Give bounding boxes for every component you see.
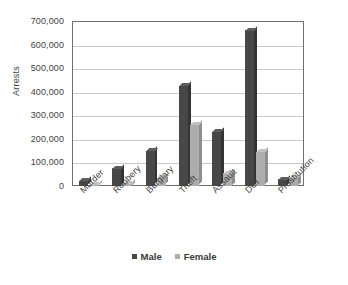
bar-group (179, 21, 212, 186)
bar-group (112, 21, 145, 186)
legend-label: Male (141, 251, 162, 262)
bar-dui-male (245, 30, 254, 186)
y-axis-tick-label: 600,000 (31, 40, 64, 50)
legend-item-female[interactable]: Female (175, 251, 217, 262)
y-axis-tick-label: 200,000 (31, 134, 64, 144)
legend-label: Female (184, 251, 217, 262)
bar-side (199, 121, 202, 185)
y-axis-tick-label: 300,000 (31, 110, 64, 120)
legend-item-male[interactable]: Male (132, 251, 162, 262)
x-axis-category-labels: MurderRobberyBurglaryTheftAssaultDUIPros… (72, 188, 304, 236)
bar-side (265, 148, 268, 185)
y-axis-tick-label: 700,000 (31, 16, 64, 26)
chart-legend: MaleFemale (0, 251, 348, 262)
bar-group (146, 21, 179, 186)
bar-theft-male (179, 86, 188, 186)
y-axis-tick-label: 100,000 (31, 157, 64, 167)
bar-face (245, 30, 254, 186)
bar-group (212, 21, 245, 186)
male-legend-swatch (132, 254, 137, 259)
y-axis-tick-label: 500,000 (31, 63, 64, 73)
bar-group (245, 21, 278, 186)
bar-group (79, 21, 112, 186)
bars-layer (72, 21, 304, 186)
y-axis-tick-label: 0 (59, 181, 64, 191)
bar-face (179, 86, 188, 186)
y-axis-tick-label: 400,000 (31, 87, 64, 97)
y-axis-tick-labels: 0100,000200,000300,000400,000500,000600,… (0, 21, 68, 186)
bar-chart: Arrests 0100,000200,000300,000400,000500… (0, 0, 348, 285)
female-legend-swatch (175, 254, 180, 259)
